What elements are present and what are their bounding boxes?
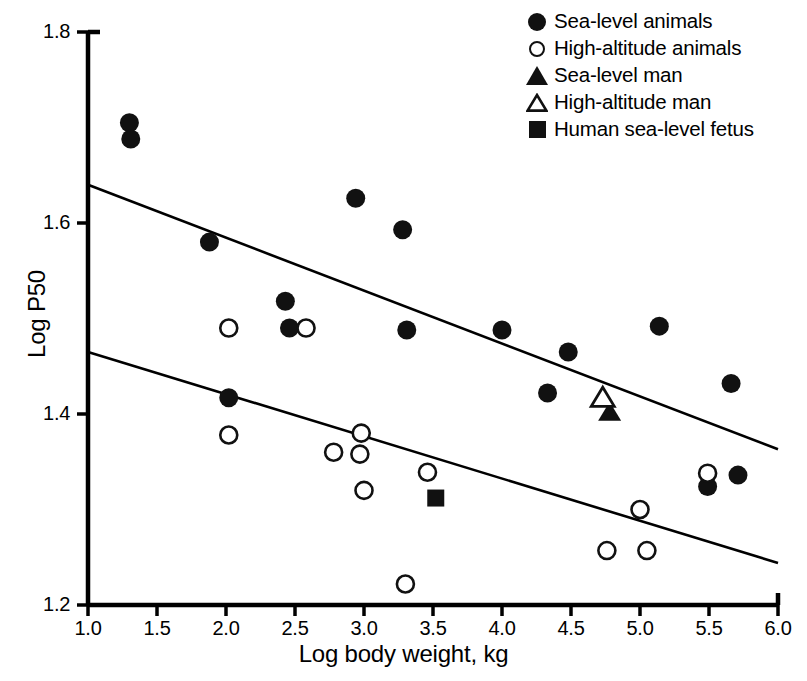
data-point-open-circle — [220, 427, 237, 444]
x-tick-label: 6.0 — [748, 617, 807, 640]
legend-item-label: Human sea-level fetus — [554, 119, 754, 140]
filled-triangle-icon — [520, 62, 554, 89]
data-point-open-triangle — [591, 387, 614, 406]
y-tick-label: 1.4 — [10, 402, 70, 425]
legend-item-label: High-altitude man — [554, 92, 711, 113]
filled-square-icon — [520, 116, 554, 143]
y-tick-label: 1.6 — [10, 211, 70, 234]
open-triangle-icon — [520, 89, 554, 116]
x-tick-label: 5.5 — [679, 617, 739, 640]
data-point-filled-circle — [728, 466, 747, 485]
data-point-filled-circle — [121, 129, 140, 148]
legend-item-label: Sea-level animals — [554, 11, 712, 32]
filled-square-icon-glyph — [529, 121, 546, 138]
chart-legend: Sea-level animalsHigh-altitude animalsSe… — [520, 8, 800, 143]
data-point-filled-circle — [280, 319, 299, 338]
data-point-open-circle — [699, 465, 716, 482]
open-triangle-icon-glyph — [526, 93, 548, 112]
data-point-filled-circle — [276, 292, 295, 311]
data-point-open-circle — [598, 542, 615, 559]
x-tick-label: 4.0 — [472, 617, 532, 640]
y-tick-label: 1.2 — [10, 593, 70, 616]
data-point-filled-circle — [393, 220, 412, 239]
open-circle-icon — [520, 35, 554, 62]
x-tick-label: 4.5 — [541, 617, 601, 640]
scatter-plot-figure: 1.01.52.02.53.03.54.04.55.05.56.01.21.41… — [0, 0, 807, 681]
data-point-filled-circle — [559, 342, 578, 361]
legend-item-label: High-altitude animals — [554, 38, 741, 59]
legend-item-filled-square[interactable]: Human sea-level fetus — [520, 116, 800, 143]
data-point-filled-circle — [538, 383, 557, 402]
x-tick-label: 2.5 — [265, 617, 325, 640]
data-point-open-circle — [325, 444, 342, 461]
data-point-open-circle — [356, 482, 373, 499]
data-point-open-circle — [397, 575, 414, 592]
data-point-filled-circle — [219, 388, 238, 407]
data-point-filled-circle — [493, 320, 512, 339]
trendline-sea-level-regression — [88, 185, 778, 450]
data-point-open-circle — [298, 320, 315, 337]
data-point-open-circle — [353, 425, 370, 442]
legend-item-open-triangle[interactable]: High-altitude man — [520, 89, 800, 116]
data-point-filled-circle — [346, 189, 365, 208]
trendline-high-altitude-regression — [88, 352, 778, 563]
x-tick-label: 3.0 — [334, 617, 394, 640]
x-tick-label: 2.0 — [196, 617, 256, 640]
x-tick-label: 1.0 — [58, 617, 118, 640]
data-point-filled-circle — [722, 374, 741, 393]
open-circle-icon-glyph — [529, 41, 545, 57]
data-point-filled-circle — [397, 320, 416, 339]
x-axis-title: Log body weight, kg — [0, 640, 807, 668]
data-point-filled-circle — [200, 233, 219, 252]
data-point-open-circle — [419, 464, 436, 481]
data-points-group — [120, 113, 748, 592]
legend-item-open-circle[interactable]: High-altitude animals — [520, 35, 800, 62]
x-tick-label: 5.0 — [610, 617, 670, 640]
filled-triangle-icon-glyph — [526, 66, 548, 85]
legend-item-label: Sea-level man — [554, 65, 682, 86]
filled-circle-icon-glyph — [528, 13, 546, 31]
y-axis-title: Log P50 — [23, 244, 51, 384]
y-tick-label: 1.8 — [10, 20, 70, 43]
data-point-open-circle — [638, 542, 655, 559]
legend-item-filled-triangle[interactable]: Sea-level man — [520, 62, 800, 89]
filled-circle-icon — [520, 8, 554, 35]
legend-item-filled-circle[interactable]: Sea-level animals — [520, 8, 800, 35]
data-point-open-circle — [351, 446, 368, 463]
data-point-filled-circle — [650, 317, 669, 336]
data-point-open-circle — [632, 501, 649, 518]
data-point-filled-circle — [120, 113, 139, 132]
data-point-open-circle — [220, 320, 237, 337]
data-point-filled-square — [427, 490, 444, 507]
x-tick-label: 1.5 — [127, 617, 187, 640]
x-tick-label: 3.5 — [403, 617, 463, 640]
